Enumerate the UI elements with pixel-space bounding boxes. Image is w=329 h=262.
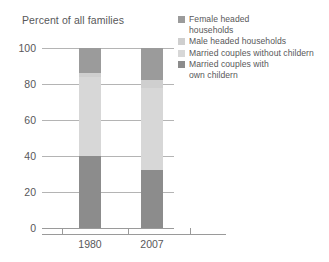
x-axis-line	[42, 234, 226, 235]
x-axis-tick-label-1980: 1980	[78, 238, 101, 250]
legend-item-married-without-children: Married couples without childern	[178, 48, 328, 59]
y-axis-tick-label: 60	[24, 114, 36, 126]
bar-1980	[79, 48, 101, 228]
legend-item-label: Married couples without childern	[189, 48, 314, 59]
legend-item-label: Male headed households	[189, 36, 286, 47]
bar-segment	[141, 48, 163, 80]
legend-item-female-headed: Female headed households	[178, 14, 328, 35]
chart-title: Percent of all families	[22, 14, 124, 26]
bar-segment	[79, 156, 101, 228]
bar-segment	[141, 88, 163, 171]
y-axis-tick-label: 80	[24, 78, 36, 90]
legend-item-label: Female headed households	[189, 14, 249, 35]
legend-item-label: Married couples with own childern	[189, 59, 269, 80]
bar-segment	[141, 80, 163, 87]
legend-swatch-icon	[178, 38, 185, 45]
legend-swatch-icon	[178, 50, 185, 57]
plot-area: 020406080100	[42, 48, 174, 228]
x-axis-tick-mark	[128, 228, 129, 234]
y-axis-tick-label: 100	[18, 42, 36, 54]
bar-segment	[79, 77, 101, 156]
x-axis-tick-label-2007: 2007	[140, 238, 163, 250]
legend-item-male-headed: Male headed households	[178, 36, 328, 47]
legend-swatch-icon	[178, 16, 185, 23]
stacked-bar-chart: Percent of all families 020406080100 Fem…	[0, 0, 329, 262]
bar-segment	[79, 73, 101, 77]
legend-swatch-icon	[178, 61, 185, 68]
bar-segment	[79, 48, 101, 73]
bar-segment	[141, 170, 163, 228]
y-axis-tick-label: 40	[24, 150, 36, 162]
bar-2007	[141, 48, 163, 228]
chart-legend: Female headed households Male headed hou…	[178, 14, 328, 81]
y-axis-tick-label: 0	[30, 222, 36, 234]
x-axis-tick-mark	[62, 228, 63, 234]
x-axis-tick-mark	[190, 228, 191, 234]
y-axis-tick-label: 20	[24, 186, 36, 198]
legend-item-married-with-children: Married couples with own childern	[178, 59, 328, 80]
